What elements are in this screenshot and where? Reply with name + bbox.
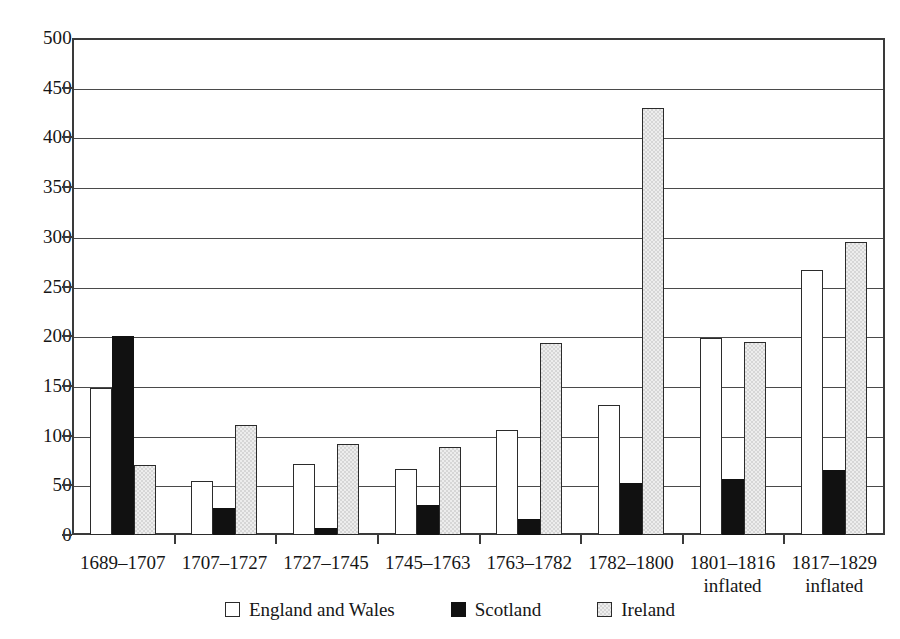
x-axis-tick-mark xyxy=(174,535,176,544)
x-axis-tick-label: 1745–1763 xyxy=(385,551,471,574)
gridline xyxy=(74,238,883,239)
legend-item-label: Ireland xyxy=(621,600,675,619)
y-axis-tick-mark xyxy=(62,236,72,238)
plot-area xyxy=(72,38,885,535)
legend-item-england[interactable]: England and Wales xyxy=(225,600,395,619)
x-axis-tick-mark xyxy=(783,535,785,544)
gridline xyxy=(74,437,883,438)
x-axis-tick-label-period: 1763–1782 xyxy=(487,552,573,573)
x-axis-tick-label-period: 1745–1763 xyxy=(385,552,471,573)
x-axis-tick-label: 1763–1782 xyxy=(487,551,573,574)
y-axis: 050100150200250300350400450500 xyxy=(0,38,72,535)
hollow-square-icon xyxy=(225,602,240,617)
x-axis-tick-label-period: 1727–1745 xyxy=(283,552,369,573)
y-axis-tick-label: 500 xyxy=(12,28,72,47)
y-axis-tick-mark xyxy=(62,484,72,486)
gridline xyxy=(74,188,883,189)
legend-item-label: Scotland xyxy=(475,600,542,619)
filled-gray-square-icon xyxy=(597,602,612,617)
chart-legend: England and WalesScotlandIreland xyxy=(0,600,900,619)
y-axis-tick-mark xyxy=(62,335,72,337)
gridline xyxy=(74,387,883,388)
x-axis-tick-label: 1801–1816inflated xyxy=(690,551,776,597)
x-axis-tick-mark xyxy=(682,535,684,544)
x-axis-tick-label-note: inflated xyxy=(791,574,877,597)
x-axis-tick-label: 1689–1707 xyxy=(80,551,166,574)
x-axis-tick-label-period: 1782–1800 xyxy=(588,552,674,573)
x-axis-tick-label-period: 1707–1727 xyxy=(182,552,268,573)
legend-item-ireland[interactable]: Ireland xyxy=(597,600,675,619)
gridline xyxy=(74,337,883,338)
gridline xyxy=(74,486,883,487)
y-axis-tick-mark xyxy=(62,385,72,387)
legend-item-label: England and Wales xyxy=(249,600,395,619)
y-axis-tick-mark xyxy=(62,286,72,288)
gridline xyxy=(74,89,883,90)
gridline xyxy=(74,288,883,289)
filled-black-square-icon xyxy=(451,602,466,617)
bar-chart: 050100150200250300350400450500 1689–1707… xyxy=(0,0,900,639)
y-axis-tick-mark xyxy=(62,435,72,437)
x-axis: 1689–17071707–17271727–17451745–17631763… xyxy=(72,535,885,605)
x-axis-tick-label-period: 1689–1707 xyxy=(80,552,166,573)
x-axis-tick-label-period: 1817–1829 xyxy=(791,552,877,573)
y-axis-tick-mark xyxy=(62,136,72,138)
x-axis-tick-mark xyxy=(275,535,277,544)
x-axis-tick-label-note: inflated xyxy=(690,574,776,597)
legend-item-scotland[interactable]: Scotland xyxy=(451,600,542,619)
y-axis-tick-mark xyxy=(62,87,72,89)
x-axis-tick-label: 1727–1745 xyxy=(283,551,369,574)
x-axis-tick-label: 1707–1727 xyxy=(182,551,268,574)
x-axis-tick-mark xyxy=(377,535,379,544)
x-axis-tick-label: 1817–1829inflated xyxy=(791,551,877,597)
x-axis-tick-mark xyxy=(479,535,481,544)
x-axis-tick-label-period: 1801–1816 xyxy=(690,552,776,573)
x-axis-tick-mark xyxy=(580,535,582,544)
gridline xyxy=(74,138,883,139)
x-axis-tick-label: 1782–1800 xyxy=(588,551,674,574)
y-axis-tick-mark xyxy=(62,186,72,188)
y-axis-tick-mark xyxy=(62,534,72,536)
